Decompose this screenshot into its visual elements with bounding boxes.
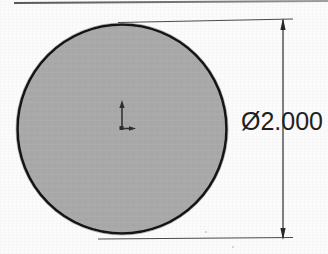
scan-speckle xyxy=(205,231,207,233)
diameter-dimension-label: Ø2.000 xyxy=(241,107,323,136)
origin-point xyxy=(120,126,124,130)
upper-extension-line xyxy=(118,19,293,23)
lower-extension-line xyxy=(98,238,293,240)
dimension-arrowhead-bottom xyxy=(280,228,285,240)
technical-drawing-canvas: Ø2.000 xyxy=(0,0,328,254)
scan-speckle xyxy=(232,246,234,248)
